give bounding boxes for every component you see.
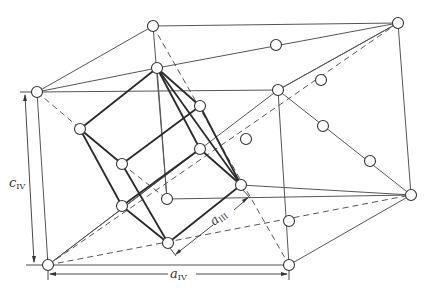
atom [148, 21, 159, 32]
atom [284, 216, 295, 227]
atom [241, 134, 252, 145]
atom [75, 124, 86, 135]
atom [271, 40, 282, 51]
atom [318, 121, 329, 132]
diagonal-lines [37, 23, 411, 265]
atom [273, 85, 284, 96]
atom [284, 260, 295, 271]
label-c-iv: cIV [9, 175, 25, 191]
atom [316, 75, 327, 86]
crystal-lattice-diagram: cIV aIV aIII [0, 0, 442, 302]
dimension-a-iv [48, 268, 289, 280]
atom [195, 101, 206, 112]
atom [43, 260, 54, 271]
atom [117, 159, 128, 170]
outer-cell-edges [37, 23, 411, 265]
atom [162, 194, 173, 205]
atom [195, 144, 206, 155]
atom [152, 63, 163, 74]
atom [365, 156, 376, 167]
label-a-iv: aIV [170, 266, 187, 282]
dimension-a-iii [170, 190, 250, 256]
atom [32, 87, 43, 98]
atom [236, 180, 247, 191]
atom [163, 238, 174, 249]
hidden-lines [37, 23, 411, 265]
atom [406, 190, 417, 201]
atom [117, 201, 128, 212]
atom [393, 18, 404, 29]
